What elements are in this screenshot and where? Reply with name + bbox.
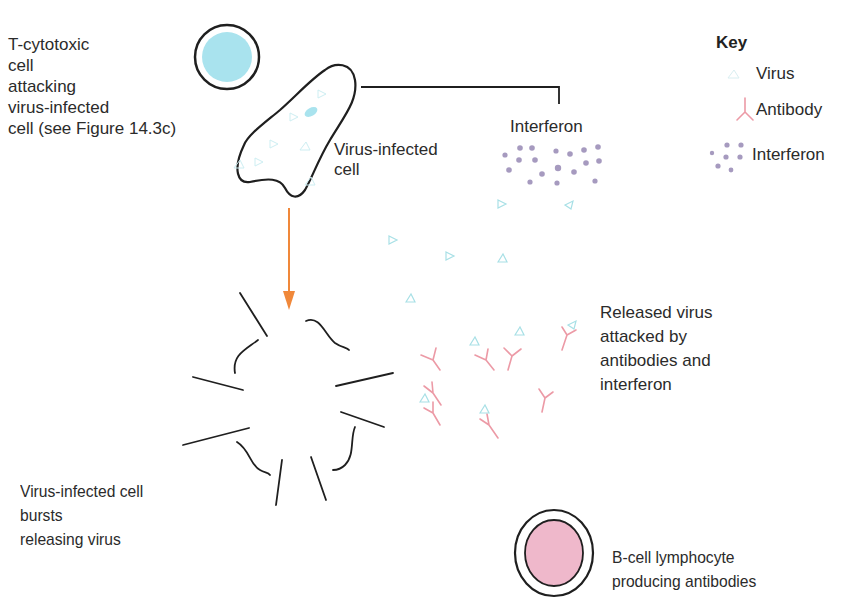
key-icons [710, 70, 753, 172]
b-cell-label: B-cell lymphocyte producing antibodies [612, 546, 756, 594]
interferon-icon [710, 142, 744, 172]
t-cytotoxic-cell [195, 25, 259, 89]
antibodies [421, 327, 576, 438]
key-item-interferon: Interferon [752, 145, 825, 165]
key-title: Key [716, 33, 747, 53]
antibody-icon [737, 98, 753, 120]
connector-line [361, 87, 559, 104]
key-item-virus: Virus [756, 64, 794, 84]
infected-cell-label: Virus-infected cell [334, 140, 438, 180]
burst-arrow [283, 208, 295, 310]
interferon-cluster [502, 144, 601, 185]
virus-icon [728, 70, 739, 78]
free-viruses [389, 200, 573, 302]
released-virus-label: Released virus attacked by antibodies an… [600, 301, 712, 397]
b-cell-lymphocyte [515, 510, 593, 596]
burst-label: Virus-infected cell bursts releasing vir… [20, 480, 143, 552]
interferon-label: Interferon [510, 117, 583, 137]
t-cell-label: T-cytotoxic cell attacking virus-infecte… [8, 34, 176, 139]
burst-cell-fragments [183, 293, 393, 505]
attached-viruses [420, 321, 576, 413]
key-item-antibody: Antibody [756, 100, 822, 120]
